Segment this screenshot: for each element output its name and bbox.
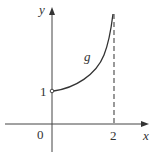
x-axis-label: x bbox=[142, 128, 149, 143]
x-axis-arrow-icon bbox=[141, 121, 149, 127]
graph-of-g: y x 0 2 1 g bbox=[0, 0, 161, 155]
y-axis-arrow-icon bbox=[49, 7, 55, 15]
y-tick-label-1: 1 bbox=[40, 84, 47, 99]
origin-label: 0 bbox=[37, 127, 44, 142]
x-tick-label-2: 2 bbox=[110, 128, 117, 143]
y-axis-label: y bbox=[37, 2, 45, 17]
curve-label-g: g bbox=[84, 49, 91, 64]
open-circle-marker bbox=[50, 89, 54, 93]
